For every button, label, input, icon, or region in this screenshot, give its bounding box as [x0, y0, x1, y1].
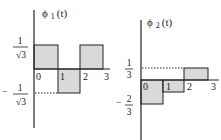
phi2-title: ϕ2(t) — [147, 16, 173, 30]
phi1-xtick-1: 1 — [60, 71, 65, 82]
phi1-title: ϕ1(t) — [42, 7, 68, 21]
phi2-ytick-negative: − 2 3 — [116, 94, 133, 117]
svg-text:3: 3 — [127, 70, 132, 80]
svg-text:−: − — [2, 87, 7, 97]
phi1-xtick-0: 0 — [36, 71, 41, 82]
phi1-ytick-positive: 1 √3 — [13, 36, 28, 60]
svg-text:√3: √3 — [16, 97, 26, 107]
phi2-xtick-3: 3 — [211, 81, 216, 92]
phi1-segment-0-1 — [34, 45, 58, 69]
svg-text:1: 1 — [18, 36, 23, 46]
svg-text:2: 2 — [127, 94, 132, 104]
phi2-ytick-positive: 1 3 — [125, 58, 133, 80]
phi2-xtick-1: 1 — [166, 81, 171, 92]
phi2-xtick-0: 0 — [143, 81, 148, 92]
svg-text:1: 1 — [18, 83, 23, 93]
phi2-segment-2-3 — [184, 68, 208, 80]
phi2-chart: ϕ2(t) 0 1 2 3 1 3 − 2 3 — [116, 16, 219, 140]
svg-text:3: 3 — [127, 107, 132, 117]
basis-functions-diagram: ϕ1(t) 0 1 2 3 1 √3 − 1 √3 — [0, 0, 221, 140]
phi1-chart: ϕ1(t) 0 1 2 3 1 √3 − 1 √3 — [2, 7, 110, 128]
svg-text:√3: √3 — [16, 50, 26, 60]
phi1-segment-2-3 — [80, 45, 103, 69]
phi2-xtick-2: 2 — [187, 81, 192, 92]
svg-text:−: − — [116, 98, 121, 108]
phi1-ytick-negative: − 1 √3 — [2, 83, 28, 107]
svg-text:1: 1 — [127, 58, 132, 68]
phi1-xtick-2: 2 — [83, 71, 88, 82]
phi1-xtick-3: 3 — [104, 71, 109, 82]
